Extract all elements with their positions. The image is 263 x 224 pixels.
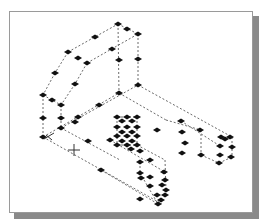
grip-handle[interactable] (123, 27, 131, 32)
grip-handle[interactable] (134, 32, 142, 37)
grip-handle[interactable] (146, 184, 154, 189)
grip-handle[interactable] (71, 82, 79, 87)
grip-handle[interactable] (123, 115, 131, 120)
grip-handle[interactable] (123, 125, 131, 130)
grip-handle[interactable] (133, 143, 141, 148)
grip-handle[interactable] (216, 153, 224, 158)
grip-handle[interactable] (128, 119, 136, 124)
grip-handle[interactable] (134, 57, 142, 62)
grip-handle[interactable] (118, 119, 126, 124)
grip-handle[interactable] (118, 130, 126, 135)
grip-handle[interactable] (64, 50, 72, 55)
grip-handle[interactable] (133, 125, 141, 130)
model-edge (43, 73, 55, 95)
grip-handle[interactable] (83, 61, 91, 66)
model-edge (75, 63, 87, 84)
grip-handle[interactable] (162, 188, 170, 193)
grip-handle[interactable] (133, 115, 141, 120)
grip-handle[interactable] (160, 170, 168, 175)
grip-handle[interactable] (114, 22, 122, 27)
model-grips (39, 22, 236, 207)
grip-handle[interactable] (57, 126, 65, 131)
grip-handle[interactable] (136, 160, 144, 165)
grip-handle[interactable] (196, 128, 204, 133)
wireframe-model[interactable] (0, 0, 263, 224)
grip-handle[interactable] (97, 168, 105, 173)
grip-handle[interactable] (146, 158, 154, 163)
grip-handle[interactable] (146, 175, 154, 180)
grip-handle[interactable] (84, 139, 92, 144)
grip-handle[interactable] (161, 193, 169, 198)
grip-handle[interactable] (178, 130, 186, 135)
crosshair-cursor-icon (68, 144, 80, 156)
model-edge (61, 128, 120, 160)
grip-handle[interactable] (51, 71, 59, 76)
grip-handle[interactable] (227, 155, 235, 160)
grip-handle[interactable] (153, 193, 161, 198)
grip-handle[interactable] (228, 145, 236, 150)
grip-handle[interactable] (216, 144, 224, 149)
grip-handle[interactable] (118, 139, 126, 144)
grip-handle[interactable] (136, 197, 144, 202)
grip-handle[interactable] (74, 56, 82, 61)
model-edge (138, 85, 232, 137)
grip-handle[interactable] (39, 93, 47, 98)
grip-handle[interactable] (137, 176, 145, 181)
grip-handle[interactable] (91, 35, 99, 40)
grip-handle[interactable] (197, 153, 205, 158)
grip-handle[interactable] (115, 58, 123, 63)
grip-handle[interactable] (133, 134, 141, 139)
model-edges (43, 24, 232, 204)
grip-handle[interactable] (123, 134, 131, 139)
grip-handle[interactable] (113, 143, 121, 148)
grip-handle[interactable] (153, 128, 161, 133)
grip-handle[interactable] (177, 119, 185, 124)
grip-handle[interactable] (57, 116, 65, 121)
grip-handle[interactable] (113, 125, 121, 130)
grip-handle[interactable] (128, 139, 136, 144)
grip-handle[interactable] (158, 183, 166, 188)
grip-handle[interactable] (136, 171, 144, 176)
grip-handle[interactable] (106, 138, 114, 143)
grip-handle[interactable] (39, 116, 47, 121)
grip-handle[interactable] (128, 130, 136, 135)
grip-handle[interactable] (113, 115, 121, 120)
model-edge (61, 84, 75, 105)
grip-handle[interactable] (181, 141, 189, 146)
grip-handle[interactable] (136, 149, 144, 154)
grip-handle[interactable] (161, 178, 169, 183)
model-edge (201, 155, 219, 163)
grip-handle[interactable] (178, 151, 186, 156)
model-edge (55, 52, 68, 73)
grip-handle[interactable] (123, 143, 131, 148)
grip-handle[interactable] (113, 134, 121, 139)
